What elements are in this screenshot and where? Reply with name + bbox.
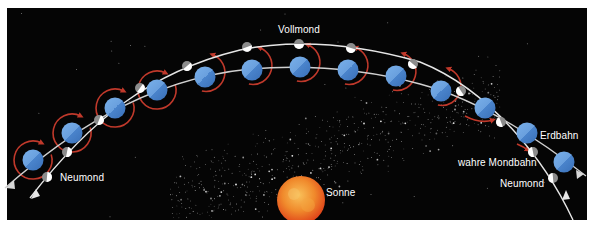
moon-icon xyxy=(294,39,304,49)
label-full-moon: Vollmond xyxy=(278,24,320,36)
label-sun: Sonne xyxy=(326,187,355,199)
bottom-margin xyxy=(0,220,596,227)
sun-icon xyxy=(277,176,325,224)
moon-icon xyxy=(242,42,252,52)
label-true-moon-orbit: wahre Mondbahn xyxy=(458,157,537,169)
earth-icon xyxy=(105,98,126,119)
moon-icon xyxy=(346,43,356,53)
label-new-moon-right: Neumond xyxy=(500,178,544,190)
moon-icon xyxy=(456,86,466,96)
moon-icon xyxy=(135,83,145,93)
earth-icon xyxy=(290,57,311,78)
moon-icon xyxy=(496,117,506,127)
moon-icon xyxy=(408,59,418,69)
earth-icon xyxy=(23,150,44,171)
moon-icon xyxy=(42,172,52,182)
earth-icon xyxy=(147,80,168,101)
earth-icon xyxy=(475,98,496,119)
moon-icon xyxy=(62,147,72,157)
moon-icon xyxy=(528,147,538,157)
earth-icon xyxy=(386,66,407,87)
earth-icon xyxy=(62,123,83,144)
moon-icon xyxy=(548,173,558,183)
earth-icon xyxy=(554,152,575,173)
moon-icon xyxy=(94,115,104,125)
earth-icon xyxy=(338,60,359,81)
earth-moon-orbit-diagram: Vollmond Neumond Sonne Erdbahn wahre Mon… xyxy=(0,0,596,227)
earth-icon xyxy=(431,81,452,102)
label-earth-orbit: Erdbahn xyxy=(540,130,579,142)
label-new-moon-left: Neumond xyxy=(60,172,104,184)
sun xyxy=(277,176,325,224)
moon-icon xyxy=(182,61,192,71)
earth-icon xyxy=(242,60,263,81)
earth-icon xyxy=(195,67,216,88)
earth-icon xyxy=(517,123,538,144)
